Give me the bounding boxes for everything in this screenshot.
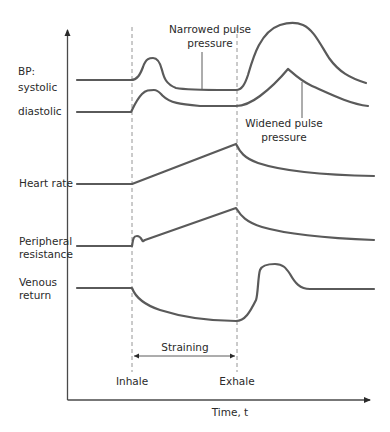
label-bp: BP: bbox=[18, 65, 35, 77]
label-inhale: Inhale bbox=[116, 375, 148, 387]
annotation-narrowed-1: Narrowed pulse bbox=[169, 23, 251, 35]
valsalva-diagram: BP: systolic diastolic Heart rate Periph… bbox=[0, 0, 390, 432]
label-diastolic: diastolic bbox=[18, 105, 62, 117]
annotation-straining: Straining bbox=[161, 341, 208, 353]
annotation-narrowed-2: pressure bbox=[187, 37, 232, 49]
venous-return-curve bbox=[77, 264, 374, 321]
peripheral-resistance-curve bbox=[77, 208, 374, 246]
label-exhale: Exhale bbox=[219, 375, 254, 387]
annotation-widened-2: pressure bbox=[261, 131, 306, 143]
label-resistance: resistance bbox=[19, 248, 73, 260]
annotation-widened-1: Widened pulse bbox=[245, 117, 322, 129]
heart-rate-curve bbox=[77, 144, 374, 184]
label-peripheral: Peripheral bbox=[19, 235, 72, 247]
label-venous: Venous bbox=[19, 276, 57, 288]
label-return: return bbox=[19, 289, 51, 301]
label-systolic: systolic bbox=[18, 81, 58, 93]
x-axis-label: Time, t bbox=[211, 406, 249, 418]
label-heart-rate: Heart rate bbox=[19, 177, 73, 189]
